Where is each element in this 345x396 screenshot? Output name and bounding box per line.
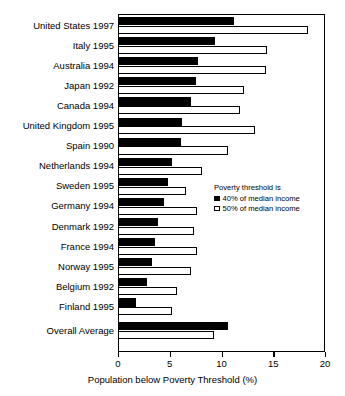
bar-40pct [118,238,155,246]
bar-40pct [118,298,136,306]
legend-swatch-hollow-icon [214,206,220,212]
bar-50pct [118,247,197,255]
poverty-threshold-bar-chart: United States 1997Italy 1995Australia 19… [0,0,345,396]
category-label: Italy 1995 [73,41,114,51]
legend: Poverty threshold is 40% of median incom… [214,183,300,213]
bar-50pct [118,46,267,54]
bar-50pct [118,126,255,134]
x-tick-label: 15 [268,358,279,369]
category-label: Germany 1994 [51,201,114,211]
legend-title: Poverty threshold is [214,183,300,193]
x-tick-mark [273,352,274,357]
bar-40pct [118,278,147,286]
legend-entry-40: 40% of median income [214,194,300,204]
category-label: United States 1997 [33,21,114,31]
legend-label-40: 40% of median income [223,194,300,204]
bar-50pct [118,227,194,235]
category-label: Japan 1992 [64,81,114,91]
x-tick-label: 0 [115,358,120,369]
bar-40pct [118,77,196,85]
bar-50pct [118,267,191,275]
bar-50pct [118,86,244,94]
x-axis-ticks: 05101520 [118,352,325,372]
bar-50pct [118,287,177,295]
bar-40pct [118,37,215,45]
bar-40pct [118,218,158,226]
category-label: Denmark 1992 [52,222,114,232]
category-label: Australia 1994 [53,61,114,71]
bar-40pct [118,158,172,166]
bar-40pct [118,138,181,146]
x-axis-title: Population below Poverty Threshold (%) [0,374,345,385]
category-label: Sweden 1995 [56,181,114,191]
bar-40pct [118,198,164,206]
category-label: Belgium 1992 [56,282,114,292]
x-tick-label: 20 [320,358,331,369]
bar-50pct [118,207,197,215]
x-tick-label: 10 [216,358,227,369]
bar-50pct [118,331,214,339]
legend-swatch-filled-icon [214,196,220,202]
category-label: France 1994 [61,242,114,252]
bar-50pct [118,307,172,315]
bar-50pct [118,146,228,154]
x-tick-mark [325,352,326,357]
bar-50pct [118,167,202,175]
bar-40pct [118,57,198,65]
x-tick-label: 5 [167,358,172,369]
bar-40pct [118,97,191,105]
legend-entry-50: 50% of median income [214,204,300,214]
bar-50pct [118,106,240,114]
category-label: Canada 1994 [57,101,114,111]
category-label: Norway 1995 [58,262,114,272]
bar-40pct [118,322,228,330]
bar-50pct [118,187,186,195]
category-label: Overall Average [47,326,114,336]
category-label: United Kingdom 1995 [23,121,114,131]
bar-50pct [118,26,308,34]
bar-40pct [118,118,182,126]
category-label: Finland 1995 [59,302,114,312]
x-tick-mark [222,352,223,357]
legend-label-50: 50% of median income [223,204,300,214]
bar-40pct [118,17,234,25]
category-label: Netherlands 1994 [39,161,114,171]
bar-40pct [118,178,168,186]
x-tick-mark [118,352,119,357]
category-label: Spain 1990 [66,141,114,151]
x-tick-mark [170,352,171,357]
bar-50pct [118,66,266,74]
bar-40pct [118,258,152,266]
